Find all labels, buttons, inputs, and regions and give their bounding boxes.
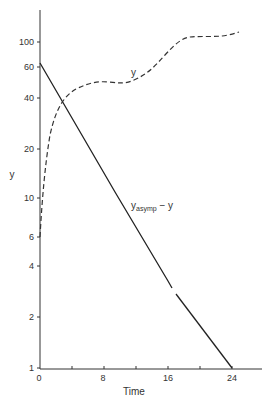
x-tick-24: 24: [227, 373, 237, 383]
x-axis-label: Time: [123, 386, 145, 397]
y-tick-labels: 100 60 40 20 10 6 4 2 1: [19, 37, 34, 373]
y-tick-6: 6: [29, 232, 34, 242]
series-y-label: y: [131, 67, 136, 78]
y-tick-20: 20: [24, 144, 34, 154]
x-tick-labels: 0 8 16 24: [36, 373, 237, 383]
series-diff-line: [40, 63, 172, 288]
y-tick-1: 1: [29, 363, 34, 373]
series-diff-label: yasymp − y: [131, 200, 173, 213]
x-tick-8: 8: [100, 373, 105, 383]
y-axis-label: y: [10, 169, 15, 180]
y-tick-4: 4: [29, 261, 34, 271]
y-tick-60: 60: [24, 62, 34, 72]
series-diff-line-lower: [176, 294, 232, 368]
x-tick-16: 16: [163, 373, 173, 383]
chart: 100 60 40 20 10 6 4 2 1 0 8 16 24 Time y…: [0, 0, 274, 401]
y-tick-40: 40: [24, 93, 34, 103]
y-tick-100: 100: [19, 37, 34, 47]
x-tick-0: 0: [36, 373, 41, 383]
y-tick-10: 10: [24, 193, 34, 203]
y-tick-2: 2: [29, 312, 34, 322]
